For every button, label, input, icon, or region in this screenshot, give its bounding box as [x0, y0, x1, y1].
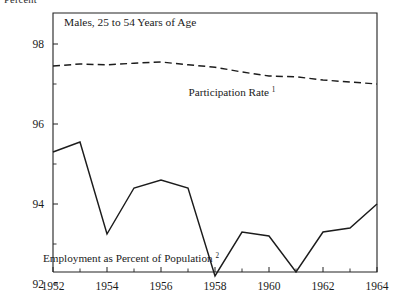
chart-ticks [53, 44, 377, 284]
chart-title-layer: Males, 25 to 54 Years of Age [64, 16, 196, 28]
y-tick-label: 98 [33, 38, 45, 50]
y-tick-label: 94 [33, 198, 45, 210]
y-tick-label: 96 [33, 118, 45, 130]
annotation-text: Employment as Percent of Population [43, 252, 215, 264]
x-tick-label: 1962 [312, 280, 335, 292]
chart-title: Males, 25 to 54 Years of Age [64, 16, 196, 28]
chart-axes [53, 13, 377, 272]
x-tick-label: 1954 [96, 280, 119, 292]
series-annotation-1: Participation Rate 1 [189, 86, 276, 98]
x-tick-label: 1952 [42, 280, 65, 292]
annotation-footnote-marker: 2 [215, 252, 219, 260]
x-tick-label: 1958 [204, 280, 227, 292]
series-line-1 [53, 62, 377, 84]
annotation-text: Participation Rate [189, 86, 272, 98]
series-annotation-2: Employment as Percent of Population 2 [43, 252, 219, 264]
plot-frame [53, 13, 377, 272]
x-tick-label: 1960 [258, 280, 281, 292]
chart-annotation-layer: Participation Rate 1Employment as Percen… [43, 86, 276, 264]
chart-container: Percent 92949698 19521954195619581960196… [0, 0, 401, 305]
line-chart: 92949698 1952195419561958196019621964 Ma… [0, 0, 401, 305]
x-tick-label: 1964 [366, 280, 389, 292]
annotation-footnote-marker: 1 [272, 86, 276, 94]
x-axis-tick-labels: 1952195419561958196019621964 [42, 280, 389, 292]
x-tick-label: 1956 [150, 280, 173, 292]
